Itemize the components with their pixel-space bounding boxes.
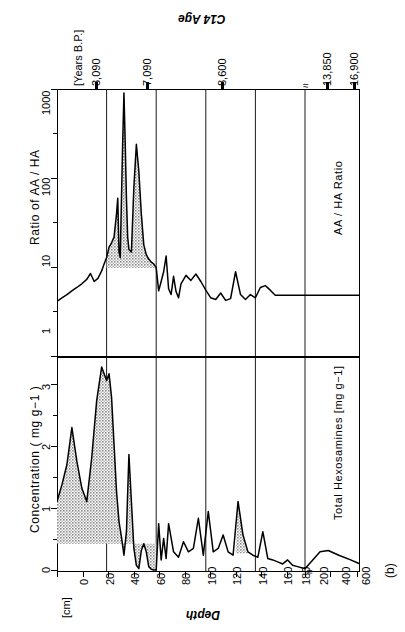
lower-shaded-region <box>57 367 156 570</box>
figure-root: C14 Age [Years B.P.] 3,090 7,090 8,600 1… <box>0 0 405 632</box>
upper-series-group <box>57 93 360 301</box>
plot-canvas <box>0 0 405 632</box>
aa-ha-ratio-curve <box>57 93 360 301</box>
lower-series-group <box>57 367 360 570</box>
